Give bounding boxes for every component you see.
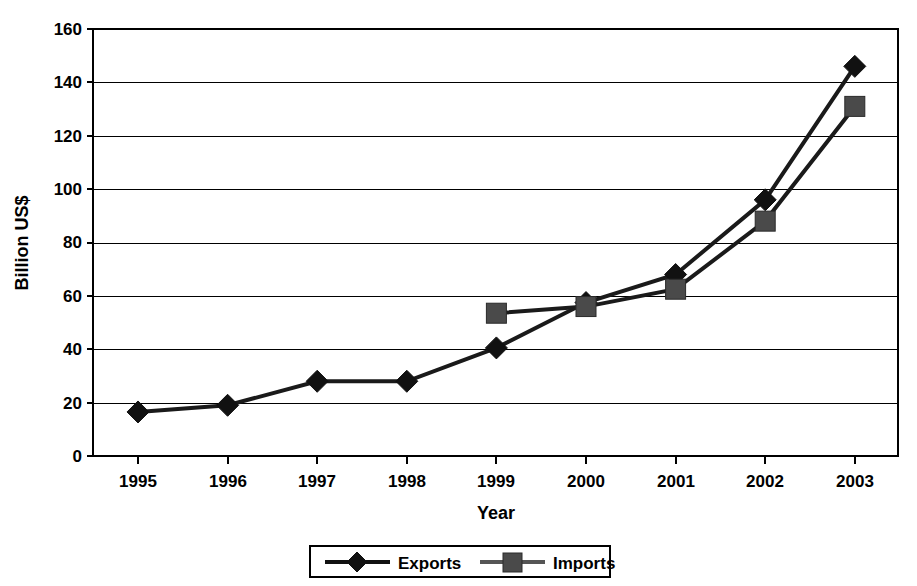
data-series-layer <box>127 55 866 423</box>
x-tick-label: 1999 <box>477 472 515 491</box>
x-axis-tick-marks <box>138 456 855 464</box>
x-tick-label: 1995 <box>119 472 157 491</box>
y-axis-title: Billion US$ <box>12 195 32 290</box>
legend-label-exports: Exports <box>398 554 461 573</box>
x-tick-label: 2002 <box>746 472 784 491</box>
line-chart: Billion US$ 160 140 120 100 80 60 40 20 … <box>0 0 917 586</box>
y-tick-label: 140 <box>54 73 82 92</box>
y-tick-label: 100 <box>54 180 82 199</box>
y-tick-label: 60 <box>63 287 82 306</box>
y-tick-label: 40 <box>63 340 82 359</box>
x-tick-label: 2000 <box>567 472 605 491</box>
legend: Exports Imports <box>310 546 615 577</box>
data-point-marker-diamond <box>306 370 328 392</box>
y-tick-label: 160 <box>54 20 82 39</box>
x-tick-label: 1997 <box>298 472 336 491</box>
x-tick-label: 1998 <box>388 472 426 491</box>
data-point-marker-diamond <box>127 401 149 423</box>
legend-label-imports: Imports <box>553 554 615 573</box>
x-tick-label: 2003 <box>836 472 874 491</box>
square-marker-icon <box>503 553 522 572</box>
data-point-marker-diamond <box>396 370 418 392</box>
x-tick-label: 2001 <box>657 472 695 491</box>
series-line-exports <box>138 66 855 412</box>
y-tick-label: 120 <box>54 127 82 146</box>
data-point-marker-square <box>486 303 506 323</box>
x-tick-label: 1996 <box>209 472 247 491</box>
data-point-marker-square <box>666 279 686 299</box>
data-point-marker-diamond <box>217 394 239 416</box>
y-axis-tick-labels: 160 140 120 100 80 60 40 20 0 <box>54 20 82 466</box>
y-tick-label: 80 <box>63 233 82 252</box>
x-axis-tick-labels: 1995 1996 1997 1998 1999 2000 2001 2002 … <box>119 472 874 491</box>
y-tick-label: 0 <box>73 447 82 466</box>
chart-svg: Billion US$ 160 140 120 100 80 60 40 20 … <box>0 0 917 586</box>
x-axis-title: Year <box>477 503 515 523</box>
data-point-marker-square <box>576 297 596 317</box>
y-tick-label: 20 <box>63 394 82 413</box>
data-point-marker-square <box>845 96 865 116</box>
data-point-marker-diamond <box>844 55 866 77</box>
data-point-marker-diamond <box>485 337 507 359</box>
data-point-marker-square <box>755 211 775 231</box>
